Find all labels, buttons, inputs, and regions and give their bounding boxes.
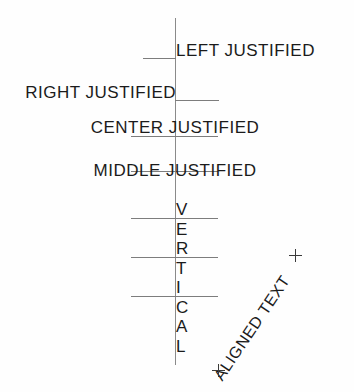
left-justified-label: LEFT JUSTIFIED bbox=[176, 42, 315, 59]
vertical-guide-line-2 bbox=[131, 257, 218, 258]
vertical-letter: V bbox=[176, 200, 187, 220]
right-justified-label: RIGHT JUSTIFIED bbox=[25, 84, 176, 101]
vertical-letter: I bbox=[176, 278, 181, 298]
vertical-letter: A bbox=[176, 317, 187, 337]
vertical-letter: C bbox=[176, 298, 188, 318]
vertical-text-stack: V E R T I C A L bbox=[176, 200, 188, 356]
aligned-text-end-point-marker bbox=[289, 249, 302, 262]
vertical-letter: E bbox=[176, 220, 187, 240]
center-justified-label: CENTER JUSTIFIED bbox=[91, 119, 260, 136]
diagram-canvas: LEFT JUSTIFIED RIGHT JUSTIFIED CENTER JU… bbox=[0, 0, 354, 392]
vertical-guide-line-3 bbox=[131, 296, 218, 297]
vertical-letter: L bbox=[176, 337, 185, 357]
aligned-text-start-point-marker bbox=[212, 364, 225, 377]
vertical-letter: R bbox=[176, 239, 188, 259]
vertical-guide-line-1 bbox=[131, 218, 218, 219]
vertical-letter: T bbox=[176, 259, 186, 279]
right-justified-baseline-tick bbox=[175, 100, 219, 101]
middle-justified-label: MIDDLE JUSTIFIED bbox=[94, 162, 257, 179]
left-justified-baseline-tick bbox=[143, 58, 176, 59]
